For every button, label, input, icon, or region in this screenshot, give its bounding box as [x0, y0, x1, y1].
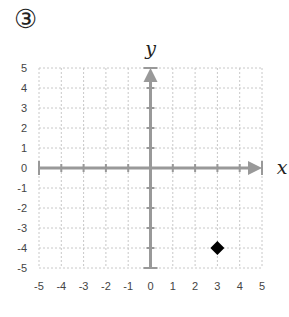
x-tick-label: 1 — [170, 280, 176, 292]
y-axis-label: y — [144, 37, 156, 59]
x-tick-label: 4 — [237, 280, 243, 292]
y-tick-label: -1 — [17, 182, 27, 194]
x-tick-label: -4 — [56, 280, 66, 292]
y-tick-label: 3 — [21, 102, 27, 114]
x-tick-label: 5 — [259, 280, 265, 292]
y-tick-label: 0 — [21, 162, 27, 174]
x-tick-label: -2 — [101, 280, 111, 292]
y-tick-label: 4 — [21, 82, 27, 94]
x-tick-label: 2 — [192, 280, 198, 292]
y-tick-label: -3 — [17, 222, 27, 234]
y-tick-label: 2 — [21, 122, 27, 134]
x-tick-label: -5 — [34, 280, 44, 292]
x-axis-arrow-icon — [248, 161, 262, 175]
y-tick-label: -4 — [17, 242, 27, 254]
data-point-diamond-icon — [210, 241, 224, 255]
y-tick-label: -2 — [17, 202, 27, 214]
y-tick-label: 1 — [21, 142, 27, 154]
y-tick-label: 5 — [21, 62, 27, 74]
x-tick-label: -3 — [79, 280, 89, 292]
coordinate-plane-chart: -5-4-3-2-1012345543210-1-2-3-4-5yx — [0, 0, 289, 317]
x-tick-label: -1 — [123, 280, 133, 292]
x-tick-label: 3 — [214, 280, 220, 292]
x-axis-label: x — [277, 156, 288, 178]
y-axis-arrow-icon — [144, 68, 158, 82]
x-tick-label: 0 — [147, 280, 153, 292]
y-tick-label: -5 — [17, 262, 27, 274]
